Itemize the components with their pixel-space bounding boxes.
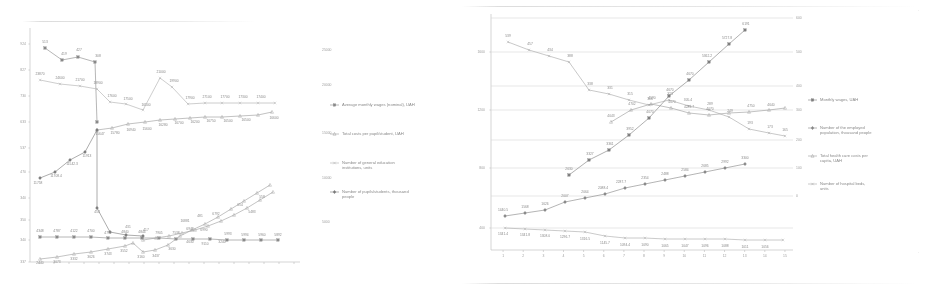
data-label: 1341.4 [498, 232, 508, 236]
data-label: 315 [627, 92, 633, 96]
data-label: 3743 [104, 252, 112, 256]
data-label: 431 [125, 225, 131, 229]
data-point-marker [724, 166, 727, 169]
data-label: 539 [505, 34, 511, 38]
data-point-marker [209, 238, 212, 241]
data-label: 654 [237, 203, 243, 207]
data-point-marker [61, 59, 64, 62]
data-label: 2287.7 [616, 180, 626, 184]
data-label: 11542.3 [66, 162, 78, 166]
data-point-marker [124, 237, 127, 240]
data-label: 3240 [218, 240, 226, 244]
data-label: 2088.4 [598, 186, 608, 190]
data-point-marker [271, 110, 274, 113]
data-label: 2584 [681, 168, 689, 172]
data-point-marker [226, 239, 229, 242]
data-label: 419 [61, 52, 67, 56]
secondary-y-axis-tick-label: 200 [796, 138, 802, 142]
data-label: 1011 [741, 245, 748, 249]
data-label: 289 [707, 102, 713, 106]
data-label: 1308.0 [540, 234, 550, 238]
data-label: 17300 [238, 95, 247, 99]
data-label: 16500 [141, 103, 150, 107]
data-point-marker [56, 236, 59, 239]
data-label: 4070 [668, 100, 676, 104]
data-label: 1094.4 [620, 243, 630, 247]
data-point-marker [269, 183, 272, 186]
legend-item-label: population, thousand people [820, 130, 872, 135]
data-label: 17500 [123, 97, 132, 101]
y-axis-tick-label: 1600 [477, 50, 485, 54]
series-line [40, 130, 143, 236]
data-label: 1065 [661, 244, 669, 248]
data-label: 9110 [201, 242, 208, 246]
x-axis-tick-label: 8 [643, 254, 645, 258]
y-axis-tick-label: 340 [20, 238, 26, 242]
data-label: 4750 [747, 104, 755, 108]
data-point-marker [744, 29, 747, 32]
data-label: 4590 [648, 96, 656, 100]
data-label: 165 [782, 128, 788, 132]
data-label: 4070 [646, 110, 654, 114]
x-axis-tick-label: 6 [603, 254, 605, 258]
data-label: 1440.5 [498, 208, 508, 212]
data-point-marker [333, 190, 336, 193]
x-axis-tick-label: 3 [542, 254, 544, 258]
data-label: 2685 [701, 164, 709, 168]
data-label: 16750 [206, 119, 215, 123]
data-label: 11708.4 [50, 174, 62, 178]
data-label: 4840 [121, 230, 129, 234]
x-axis-tick-label: 11 [703, 254, 707, 258]
data-label: 3437 [152, 254, 160, 258]
data-point-marker [107, 237, 110, 240]
data-label: 5362.2 [702, 54, 712, 58]
data-label: 2007 [561, 194, 569, 198]
legend-item-label: Total costs per pupil/student, UAH [342, 131, 404, 136]
data-point-marker [624, 186, 627, 189]
data-point-marker [96, 121, 99, 124]
data-label: 21700 [75, 78, 84, 82]
data-label: 16881 [180, 219, 189, 223]
right-chart-svg: 1600120080040060050040030020010001234567… [463, 0, 925, 299]
data-point-marker [39, 236, 42, 239]
y-axis-tick-label: 924 [20, 42, 26, 46]
data-point-marker [704, 170, 707, 173]
data-label: 24600 [55, 76, 64, 80]
legend-item-label: people [342, 194, 355, 199]
y-axis-tick-label: 350 [20, 218, 26, 222]
data-label: 1341.8 [520, 233, 530, 237]
data-point-marker [94, 61, 97, 64]
series-line [40, 78, 275, 110]
data-point-marker [684, 174, 687, 177]
data-label: 3630 [168, 247, 176, 251]
data-label: 331 [607, 86, 613, 90]
data-label: 3327 [586, 152, 594, 156]
data-point-marker [811, 126, 814, 129]
data-label: 3552 [120, 249, 128, 253]
secondary-y-axis-tick-label: 5000 [322, 220, 330, 224]
y-axis-tick-label: 340 [20, 196, 26, 200]
data-label: 1047 [681, 244, 689, 248]
data-label: 338 [587, 82, 593, 86]
secondary-y-axis-tick-label: 25000 [322, 48, 332, 52]
data-label: 388 [567, 54, 573, 58]
secondary-y-axis-tick-label: 100 [796, 166, 802, 170]
data-point-marker [604, 192, 607, 195]
data-label: 15647 [95, 132, 104, 136]
data-point-marker [277, 239, 280, 242]
data-label: 16600 [269, 116, 278, 120]
data-label: 6949 [186, 227, 194, 231]
data-label: 16280 [158, 123, 167, 127]
data-point-marker [744, 162, 747, 165]
data-label: 3361 [606, 142, 614, 146]
data-label: 1316.5 [580, 237, 590, 241]
data-label: 5993 [224, 232, 232, 236]
data-label: 4122 [70, 229, 78, 233]
data-label: 3952 [626, 127, 634, 131]
data-label: 4791 [104, 231, 112, 235]
x-axis-tick-label: 2 [522, 254, 524, 258]
y-axis-tick-label: 337 [20, 260, 26, 264]
data-point-marker [608, 149, 611, 152]
data-label: 308 [95, 54, 101, 58]
data-label: 16200 [190, 120, 199, 124]
